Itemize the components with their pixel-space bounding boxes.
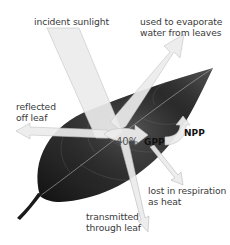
label-percent: 40% bbox=[116, 136, 138, 147]
leaf bbox=[17, 68, 213, 220]
respiration-arrow bbox=[150, 145, 183, 185]
label-evaporate-line2: water from leaves bbox=[140, 27, 221, 38]
label-respiration-line2: as heat bbox=[148, 196, 181, 207]
label-transmitted-line2: through leaf bbox=[86, 222, 141, 233]
leaf-energy-diagram: incident sunlight used to evaporate wate… bbox=[0, 0, 230, 245]
label-incident-sunlight: incident sunlight bbox=[34, 16, 109, 27]
label-transmitted-line1: transmitted bbox=[86, 211, 139, 222]
label-npp: NPP bbox=[184, 128, 205, 138]
label-evaporate-line1: used to evaporate bbox=[140, 16, 222, 27]
label-reflected-line1: reflected bbox=[16, 101, 56, 112]
label-gpp: GPP bbox=[144, 137, 165, 147]
label-respiration-line1: lost in respiration bbox=[148, 185, 226, 196]
label-reflected-line2: off leaf bbox=[16, 112, 47, 123]
